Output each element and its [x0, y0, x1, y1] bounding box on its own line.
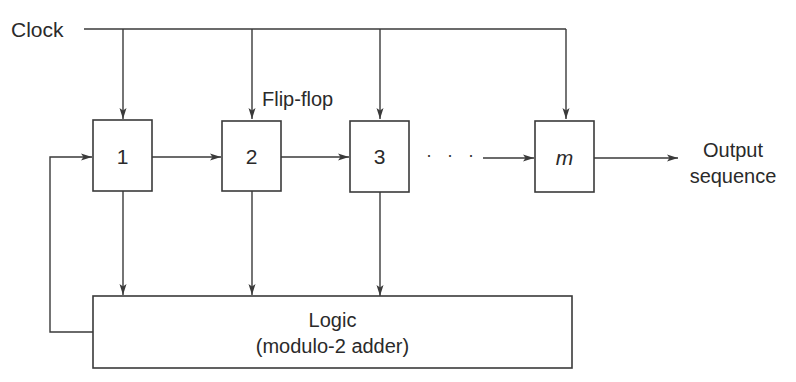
feedback-arrow	[50, 157, 93, 332]
stage-2-label: 2	[222, 146, 281, 167]
stage-1-label: 1	[93, 146, 152, 167]
logic-label-line1: Logic	[93, 307, 572, 333]
clock-label: Clock	[11, 19, 64, 40]
stage-m-label: m	[535, 147, 594, 168]
logic-label-line2: (modulo-2 adder)	[93, 333, 572, 359]
flipflop-label: Flip-flop	[262, 89, 333, 109]
shift-register-diagram: Clock Flip-flop 1 2 3 m · · · Output seq…	[0, 0, 796, 382]
logic-label: Logic (modulo-2 adder)	[93, 307, 572, 359]
output-label-line2: sequence	[680, 163, 786, 189]
output-label-line1: Output	[680, 137, 786, 163]
stage-3-label: 3	[350, 146, 409, 167]
output-sequence-label: Output sequence	[680, 137, 786, 189]
ellipsis: · · ·	[426, 145, 479, 166]
